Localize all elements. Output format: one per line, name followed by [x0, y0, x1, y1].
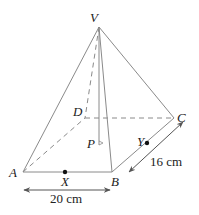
label-P: P [86, 136, 95, 151]
label-Y: Y [137, 134, 146, 149]
edge-AD [23, 118, 85, 172]
label-D: D [72, 104, 83, 119]
dimension-label-AB: 20 cm [50, 191, 82, 206]
point-Y [145, 141, 149, 145]
pyramid-diagram: V A B C D P X Y 20 cm 16 cm [0, 0, 199, 215]
edge-VB [99, 27, 112, 172]
label-C: C [177, 110, 186, 125]
dimension-label-BC: 16 cm [150, 154, 182, 169]
label-V: V [90, 10, 100, 25]
right-angle-marker [99, 141, 103, 145]
label-B: B [111, 174, 119, 189]
label-X: X [60, 174, 70, 189]
label-A: A [8, 165, 17, 180]
edge-VC [99, 27, 174, 118]
